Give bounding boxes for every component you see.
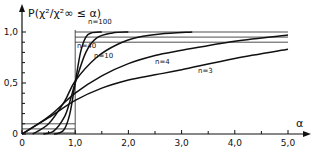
curve-label: n=4 <box>155 58 170 66</box>
axes <box>19 4 311 137</box>
y-tick-label: 0 <box>12 129 18 139</box>
curve-label: n=3 <box>198 67 213 75</box>
x-tick-label: 2,0 <box>121 138 136 148</box>
x-tick-label: 1,0 <box>68 138 83 148</box>
x-tick-label: 5,0 <box>281 138 296 148</box>
y-tick-label: 0,5 <box>4 78 18 88</box>
x-tick-label: 3,0 <box>174 138 189 148</box>
x-tick-label: 0 <box>19 138 25 148</box>
labels: 01,02,03,04,05,000,51,0n=100n=40n=10n=4n… <box>4 7 304 148</box>
curve-n-10 <box>33 32 193 134</box>
x-tick-label: 4,0 <box>228 138 243 148</box>
curve-n-4 <box>22 35 288 134</box>
curve-label: n=40 <box>77 42 96 50</box>
curve-label: n=10 <box>94 52 113 60</box>
y-axis-arrow-icon <box>19 4 25 12</box>
curves <box>22 32 288 134</box>
y-axis-label: P(χ²/χ²∞ ≤ α) <box>28 7 101 20</box>
chi-square-ratio-chart: 01,02,03,04,05,000,51,0n=100n=40n=10n=4n… <box>0 0 316 156</box>
y-tick-label: 1,0 <box>4 27 19 37</box>
x-axis-arrow-icon <box>303 131 311 137</box>
reference-lines <box>22 30 288 134</box>
x-axis-label: α <box>296 117 303 130</box>
chart-canvas: 01,02,03,04,05,000,51,0n=100n=40n=10n=4n… <box>0 0 316 156</box>
